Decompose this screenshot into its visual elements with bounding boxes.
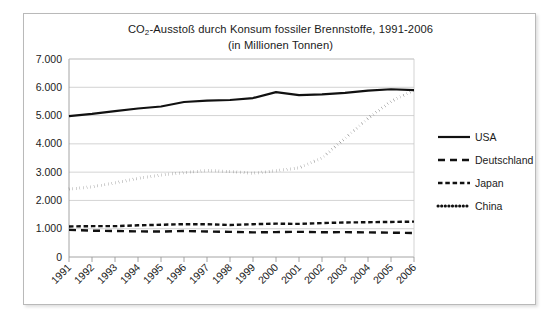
x-axis-tick-label: 2006 — [393, 261, 418, 286]
x-axis-tick-label: 2004 — [347, 261, 372, 286]
x-axis-tick-label: 1998 — [209, 261, 234, 286]
series-line-japan — [69, 222, 414, 227]
y-axis-tick-label: 7.000 — [36, 53, 62, 65]
x-axis-tick-label: 1996 — [163, 261, 188, 286]
x-axis-tick-label: 1992 — [71, 261, 96, 286]
legend-label-usa: USA — [475, 131, 497, 143]
axis-lines — [69, 59, 414, 257]
data-series-group — [69, 89, 414, 233]
x-axis-tick-label: 1993 — [94, 261, 119, 286]
legend-label-china: China — [475, 200, 503, 212]
x-axis-tick-label: 1999 — [232, 261, 257, 286]
x-axis-tick-label: 1995 — [140, 261, 165, 286]
chart-plot-area: 7.0006.0005.0004.0003.0002.0001.0000 199… — [24, 14, 537, 306]
legend-label-japan: Japan — [475, 177, 504, 189]
series-line-deutschland — [69, 230, 414, 233]
gridlines-group — [69, 59, 414, 229]
x-axis-tick-label: 1994 — [117, 261, 142, 286]
chart-legend: USADeutschlandJapanChina — [438, 131, 534, 212]
y-axis-tick-label: 0 — [56, 251, 62, 263]
legend-label-deutschland: Deutschland — [475, 154, 534, 166]
chart-frame: CO2-Ausstoß durch Konsum fossiler Brenns… — [23, 13, 536, 305]
series-line-usa — [69, 89, 414, 116]
x-axis-tick-label: 1997 — [186, 261, 211, 286]
x-axis-tick-label: 2005 — [370, 261, 395, 286]
y-axis-tick-label: 3.000 — [36, 166, 62, 178]
x-axis-tick-label: 2001 — [278, 261, 303, 286]
y-axis-tick-label: 5.000 — [36, 109, 62, 121]
y-axis-tick-label: 4.000 — [36, 137, 62, 149]
x-axis-tick-label: 2002 — [301, 261, 326, 286]
y-axis-tick-label: 1.000 — [36, 222, 62, 234]
x-axis-tick-label: 1991 — [48, 261, 73, 286]
x-axis-tick-label: 2000 — [255, 261, 280, 286]
series-line-china — [69, 90, 414, 189]
x-axis-tick-labels: 1991199219931994199519961997199819992000… — [48, 261, 418, 286]
y-axis-tick-label: 2.000 — [36, 194, 62, 206]
y-axis-tick-labels: 7.0006.0005.0004.0003.0002.0001.0000 — [36, 53, 62, 263]
y-axis-tick-label: 6.000 — [36, 81, 62, 93]
x-axis-tick-label: 2003 — [324, 261, 349, 286]
